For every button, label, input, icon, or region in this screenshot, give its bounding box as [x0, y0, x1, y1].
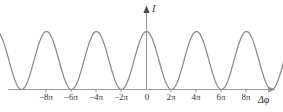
- x-tick-label: −4π: [89, 93, 103, 102]
- y-axis: [143, 6, 149, 90]
- interference-intensity-figure: −8π −6π −4π −2π 0 2π 4π 6π 8π I Δφ: [0, 0, 283, 112]
- y-axis-title: I: [152, 4, 155, 14]
- x-tick-label: 2π: [166, 93, 175, 102]
- x-tick-label: −2π: [114, 93, 128, 102]
- x-tick-label: 6π: [216, 93, 225, 102]
- x-tick-label-origin: 0: [145, 93, 150, 102]
- x-tick-label: 8π: [241, 93, 250, 102]
- x-axis-title: Δφ: [258, 95, 269, 105]
- intensity-curve: [0, 32, 283, 90]
- y-axis-arrowhead: [143, 6, 149, 14]
- x-tick-label: −8π: [39, 93, 53, 102]
- x-tick-label: 4π: [191, 93, 200, 102]
- x-tick-label: −6π: [64, 93, 78, 102]
